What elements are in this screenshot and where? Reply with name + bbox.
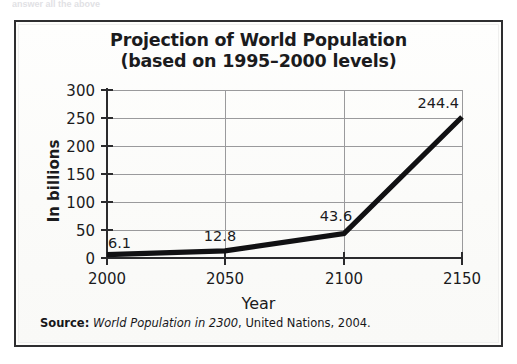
y-tick-label-250: 250 (66, 110, 95, 128)
y-axis (101, 88, 113, 259)
y-tick-labels: 300 250 200 150 100 50 0 (66, 82, 95, 268)
x-tick-label-2000: 2000 (88, 270, 126, 288)
x-tick-label-2100: 2100 (325, 270, 363, 288)
y-tick-label-0: 0 (85, 250, 95, 268)
horizontal-gridlines (107, 90, 462, 230)
x-tick-label-2150: 2150 (443, 270, 481, 288)
source-publisher: , United Nations, 2004. (238, 316, 371, 330)
data-label-2000: 6.1 (108, 235, 131, 251)
data-label-2100: 43.6 (320, 208, 352, 224)
x-tick-labels: 2000 2050 2100 2150 (88, 270, 481, 288)
data-label-2050: 12.8 (204, 228, 236, 244)
population-line-series (107, 117, 462, 255)
source-publication-title: World Population in 2300 (93, 316, 238, 330)
y-tick-label-150: 150 (66, 166, 95, 184)
cropped-page-text: answer all the above (12, 0, 212, 8)
y-axis-title: In billions (45, 121, 63, 241)
y-tick-label-200: 200 (66, 138, 95, 156)
x-axis-title: Year (16, 294, 501, 313)
y-tick-label-50: 50 (76, 222, 95, 240)
source-label: Source: (40, 316, 89, 330)
source-note: Source: World Population in 2300, United… (40, 316, 371, 330)
y-tick-label-300: 300 (66, 82, 95, 100)
data-label-2150: 244.4 (417, 95, 459, 111)
y-tick-label-100: 100 (66, 194, 95, 212)
x-tick-label-2050: 2050 (206, 270, 244, 288)
figure-frame: Projection of World Population (based on… (14, 20, 503, 347)
